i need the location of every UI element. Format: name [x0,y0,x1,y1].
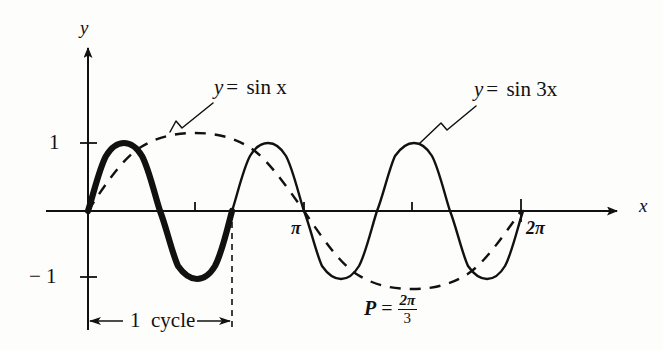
curve-label-sin-3x-y: y [474,77,483,101]
sine-graph-figure: y x 1 − 1 π 2π y= sin x y= sin 3x 1 cycl… [0,0,663,350]
cycle-annotation: 1 cycle [130,310,195,331]
curve-label-sin-3x-body: sin 3x [506,77,557,101]
period-variable: P [364,297,376,319]
callout-line-sin-3x [420,106,476,143]
x-axis-label: x [639,196,647,215]
period-equals: = [381,297,392,319]
period-numerator: 2π [398,293,418,310]
x-tick-label-pi: π [291,219,301,237]
curve-label-sin-x: y= sin x [214,77,287,98]
curve-label-sin-x-body: sin x [246,75,286,99]
curve-label-sin-3x: y= sin 3x [474,79,557,100]
period-fraction: 2π 3 [398,293,418,326]
y-tick-label-one: 1 [49,132,60,153]
x-tick-label-2pi: 2π [526,219,545,237]
period-denominator: 3 [398,310,418,327]
cycle-gap [141,308,152,332]
cycle-count: 1 [130,308,141,332]
y-tick-label-minus-one: − 1 [29,266,57,287]
plot-canvas [0,0,663,350]
period-annotation: P = 2π 3 [364,294,417,327]
callout-line-sin-x [170,103,213,132]
curve-label-sin-x-y: y [214,75,223,99]
curve-label-sin-3x-equals: = [483,77,501,101]
y-axis-label: y [80,18,88,37]
curve-label-sin-x-equals: = [223,75,241,99]
cycle-word: cycle [151,308,195,332]
